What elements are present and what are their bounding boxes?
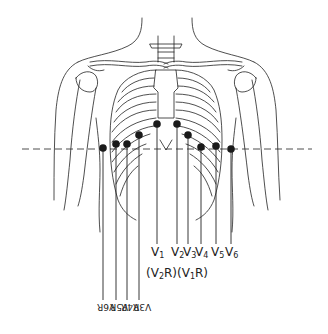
neck-left: [78, 18, 142, 62]
body-outline: [54, 18, 280, 232]
label-v2r-v1r: (V2R)(V1R): [146, 267, 208, 281]
right-arm-outer: [254, 62, 280, 200]
precordial-electrodes: [153, 120, 235, 153]
label-v6: V6: [225, 246, 238, 260]
electrode-v3: [184, 131, 192, 139]
electrode-v6: [227, 145, 235, 153]
label-v4: V4: [195, 246, 208, 260]
chest-anatomy-diagram: [0, 0, 328, 334]
electrode-v1: [153, 120, 161, 128]
label-v1: V1: [151, 246, 164, 260]
neck-right: [192, 18, 254, 62]
left-arm-outer: [54, 62, 78, 200]
electrode-v6r: [99, 144, 107, 152]
electrode-v5: [212, 142, 220, 150]
label-v5: V5: [211, 246, 224, 260]
label-v3r: V3R: [133, 302, 151, 311]
left-clavicle: [90, 61, 168, 64]
right-clavicle: [164, 61, 242, 64]
electrode-v2: [173, 120, 181, 128]
electrode-v3r: [135, 131, 143, 139]
electrode-v4: [197, 143, 205, 151]
electrode-v4r: [123, 140, 131, 148]
electrode-v5r: [112, 140, 120, 148]
sternum: [154, 70, 178, 118]
